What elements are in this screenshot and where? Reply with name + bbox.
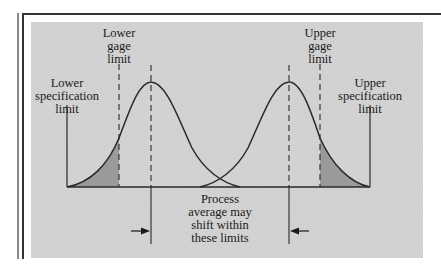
lower-spec-limit-label: Lower specification limit xyxy=(33,77,101,116)
process-average-note: Process average may shift within these l… xyxy=(180,193,260,245)
upper-gage-limit-label: Upper gage limit xyxy=(297,27,343,66)
lower-gage-limit-label: Lower gage limit xyxy=(96,27,142,66)
upper-spec-limit-label: Upper specification limit xyxy=(336,77,404,116)
